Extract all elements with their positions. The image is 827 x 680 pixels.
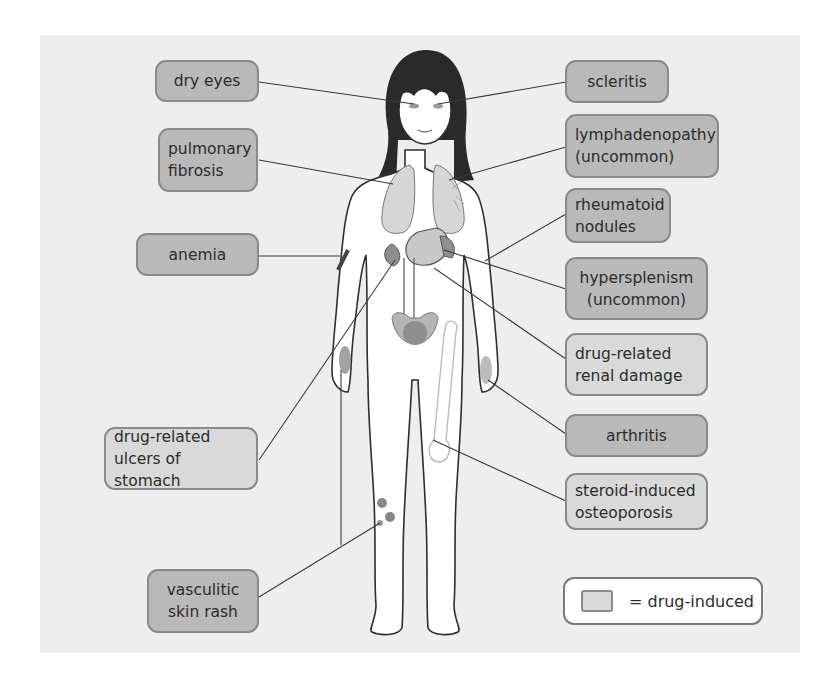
label-hypersplenism: hypersplenism (uncommon) — [565, 257, 708, 320]
legend-swatch-drug-induced — [581, 590, 613, 612]
label-dry-eyes: dry eyes — [155, 60, 259, 102]
label-rheumatoid-nodules: rheumatoid nodules — [565, 188, 671, 243]
label-pulmonary-fibrosis: pulmonary fibrosis — [158, 128, 258, 192]
label-text: anemia — [169, 244, 227, 266]
label-anemia: anemia — [136, 233, 259, 276]
rash-spot — [385, 512, 395, 522]
label-drug-related-renal-damage: drug-related renal damage — [565, 333, 708, 396]
left-eye — [409, 104, 419, 109]
label-arthritis: arthritis — [565, 414, 708, 457]
label-text: dry eyes — [174, 70, 241, 92]
label-text: rheumatoid nodules — [575, 194, 665, 238]
label-drug-related-ulcers: drug-related ulcers of stomach — [104, 427, 258, 490]
wrist-inflammation-right — [480, 356, 492, 384]
label-vasculitic-skin-rash: vasculitic skin rash — [147, 569, 259, 633]
label-text: steroid-induced osteoporosis — [575, 480, 696, 524]
label-text: arthritis — [606, 425, 667, 447]
label-steroid-induced-osteoporosis: steroid-induced osteoporosis — [565, 473, 708, 530]
label-scleritis: scleritis — [565, 60, 669, 103]
wrist-inflammation-left — [339, 346, 351, 374]
label-text: vasculitic skin rash — [167, 579, 240, 623]
label-text: hypersplenism (uncommon) — [580, 267, 694, 311]
label-text: scleritis — [587, 71, 647, 93]
label-lymphadenopathy: lymphadenopathy (uncommon) — [565, 114, 719, 178]
right-eye — [433, 104, 443, 109]
rash-spot — [377, 498, 387, 508]
legend-label: = drug-induced — [629, 592, 754, 611]
label-text: lymphadenopathy (uncommon) — [575, 124, 716, 168]
label-text: drug-related ulcers of stomach — [114, 426, 248, 492]
label-text: drug-related renal damage — [575, 343, 682, 387]
body-outline — [332, 150, 498, 635]
label-text: pulmonary fibrosis — [168, 138, 251, 182]
bladder — [403, 321, 427, 345]
legend: = drug-induced — [563, 577, 763, 625]
